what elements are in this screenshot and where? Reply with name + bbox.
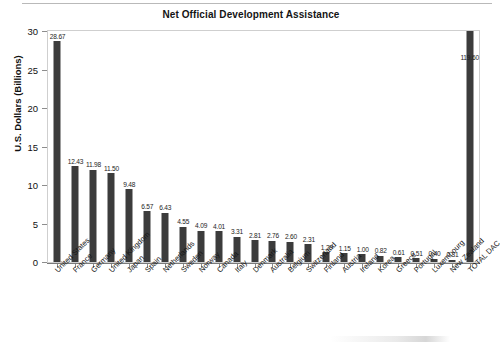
- bars-layer: 28.6712.4311.9811.509.486.576.434.554.09…: [48, 31, 479, 262]
- bar-value-label: 119.60: [460, 54, 478, 61]
- header-divider: [22, 3, 492, 4]
- bar-value-label: 6.43: [159, 204, 171, 211]
- bar-value-label: 3.31: [231, 228, 243, 235]
- bar-slot: 1.00: [353, 31, 371, 262]
- chart-container: Net Official Development Assistance U.S.…: [0, 0, 502, 345]
- bar-value-label: 4.09: [195, 222, 207, 229]
- y-tick-mark: [42, 108, 47, 109]
- y-tick-mark: [42, 70, 47, 71]
- y-tick-label-25: 25: [27, 64, 38, 75]
- bar-slot: 1.29: [317, 31, 335, 262]
- bar-value-label: 28.67: [50, 33, 66, 40]
- bar-value-label: 2.76: [267, 232, 279, 239]
- bar-slot: 11.50: [102, 31, 120, 262]
- y-tick-mark: [42, 147, 47, 148]
- bar[interactable]: [251, 240, 258, 262]
- bar-value-label: 0.61: [393, 249, 405, 256]
- bar-value-label: 9.48: [123, 181, 135, 188]
- y-tick-label-15: 15: [27, 141, 38, 152]
- bar-value-label: 2.81: [249, 232, 261, 239]
- y-tick-label-5: 5: [33, 218, 38, 229]
- y-axis: 051015202530: [0, 30, 45, 263]
- y-tick-mark: [42, 224, 47, 225]
- bar-slot: 0.82: [371, 31, 389, 262]
- bar-slot: 0.31: [443, 31, 461, 262]
- bar-slot: 4.09: [192, 31, 210, 262]
- y-tick-label-0: 0: [33, 257, 38, 268]
- bar-slot: 4.01: [210, 31, 228, 262]
- page-artifact: [330, 336, 450, 342]
- bar-value-label: 2.60: [285, 233, 297, 240]
- bar-value-label: 2.31: [303, 236, 315, 243]
- bar-slot: 0.51: [407, 31, 425, 262]
- bar-slot: 2.31: [299, 31, 317, 262]
- bar-slot: 0.61: [389, 31, 407, 262]
- y-tick-label-20: 20: [27, 103, 38, 114]
- bar-slot: 6.57: [138, 31, 156, 262]
- bar-slot: 2.81: [246, 31, 264, 262]
- y-tick-label-10: 10: [27, 180, 38, 191]
- bar-slot: 11.98: [84, 31, 102, 262]
- bar-slot: 4.55: [174, 31, 192, 262]
- bar-value-label: 11.50: [104, 165, 119, 172]
- x-axis-labels: United StatesFranceGermanyUnited Kingdom…: [48, 268, 479, 340]
- bar-value-label: 11.98: [86, 161, 101, 168]
- bar-slot: 9.48: [120, 31, 138, 262]
- bar-value-label: 4.55: [177, 218, 189, 225]
- bar-value-label: 6.57: [141, 203, 153, 210]
- bar-slot: 28.67: [48, 31, 66, 262]
- bar-slot: 6.43: [156, 31, 174, 262]
- bar[interactable]: [161, 213, 168, 263]
- bar-slot: 1.15: [335, 31, 353, 262]
- bar[interactable]: [89, 170, 96, 262]
- y-tick-label-30: 30: [27, 26, 38, 37]
- bar-slot: 2.60: [281, 31, 299, 262]
- bar-value-label: 4.01: [213, 223, 225, 230]
- bar-slot: 119.60: [461, 31, 479, 262]
- bar-slot: 2.76: [264, 31, 282, 262]
- bar[interactable]: [53, 41, 60, 262]
- y-tick-mark: [42, 185, 47, 186]
- bar-slot: 3.31: [228, 31, 246, 262]
- bar-slot: 0.40: [425, 31, 443, 262]
- chart-title: Net Official Development Assistance: [0, 9, 502, 20]
- bar-value-label: 12.43: [68, 158, 84, 165]
- y-tick-mark: [42, 31, 47, 32]
- bar-slot: 12.43: [66, 31, 84, 262]
- bar[interactable]: [467, 31, 474, 262]
